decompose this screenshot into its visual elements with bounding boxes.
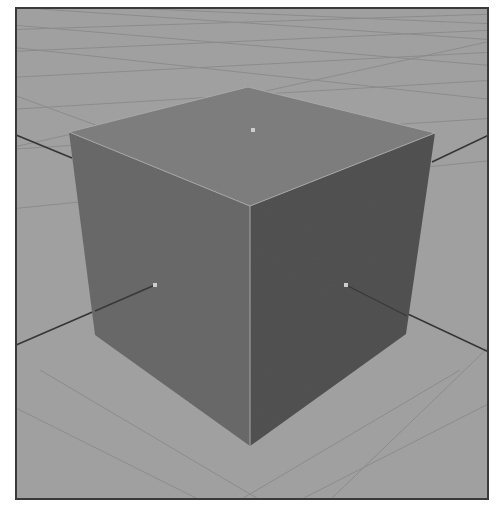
3d-viewport[interactable] [15, 7, 489, 500]
film-grain [15, 7, 489, 500]
scene-canvas [15, 7, 489, 500]
